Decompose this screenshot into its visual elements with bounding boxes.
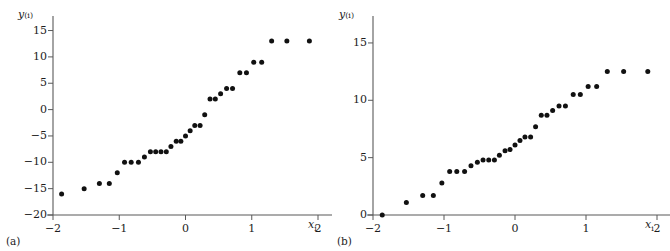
y-tick-label-b: 0 xyxy=(329,209,367,220)
y-axis-title-a: y(i) xyxy=(18,8,33,21)
x-tick-label-b: −1 xyxy=(429,223,459,234)
data-point xyxy=(492,157,497,162)
data-point xyxy=(188,128,193,133)
data-point xyxy=(497,153,502,158)
data-point xyxy=(97,181,102,186)
data-point xyxy=(122,160,127,165)
data-point xyxy=(237,70,242,75)
data-point xyxy=(269,39,274,44)
y-axis-title-b: y(i) xyxy=(339,8,354,21)
data-point xyxy=(550,108,555,113)
data-point xyxy=(192,123,197,128)
data-point xyxy=(481,157,486,162)
data-point xyxy=(142,155,147,160)
data-point xyxy=(605,69,610,74)
y-tick-label-b: 15 xyxy=(329,37,367,48)
data-point xyxy=(380,213,385,218)
data-point xyxy=(468,163,473,168)
data-point xyxy=(586,84,591,89)
data-point xyxy=(224,86,229,91)
y-tick-label-a: −15 xyxy=(9,183,47,194)
data-point xyxy=(208,97,213,102)
y-tick-label-a: −10 xyxy=(9,156,47,167)
data-point xyxy=(284,39,289,44)
data-point xyxy=(645,69,650,74)
data-point xyxy=(178,139,183,144)
y-tick-label-a: 10 xyxy=(9,51,47,62)
data-point xyxy=(563,104,568,109)
data-point xyxy=(198,123,203,128)
y-tick-label-a: 0 xyxy=(9,104,47,115)
y-tick-label-a: 15 xyxy=(9,25,47,36)
y-axis-title-sub-b: (i) xyxy=(345,11,354,20)
scatter-plot-b xyxy=(335,0,670,251)
data-point xyxy=(136,160,141,165)
data-point xyxy=(522,135,527,140)
y-tick-label-a: −20 xyxy=(9,209,47,220)
data-point xyxy=(621,69,626,74)
data-point xyxy=(148,149,153,154)
x-tick-label-b: −2 xyxy=(358,223,388,234)
data-point xyxy=(447,169,452,174)
data-point xyxy=(462,169,467,174)
data-point xyxy=(107,181,112,186)
data-point xyxy=(533,124,538,129)
panel-caption-a: (a) xyxy=(6,235,20,247)
data-point xyxy=(153,149,158,154)
data-point xyxy=(244,70,249,75)
data-point xyxy=(475,160,480,165)
x-tick-label-a: 2 xyxy=(303,223,333,234)
data-point xyxy=(164,149,169,154)
panel-b: y(i) xi (b) 051015−2−1012 xyxy=(335,0,670,251)
data-point xyxy=(439,180,444,185)
data-point xyxy=(183,133,188,138)
data-point xyxy=(557,104,562,109)
plot-area-b xyxy=(335,0,670,251)
y-tick-label-b: 10 xyxy=(329,94,367,105)
x-tick-label-a: −2 xyxy=(38,223,68,234)
y-axis-title-sub-a: (i) xyxy=(24,11,33,20)
data-point xyxy=(513,143,518,148)
y-tick-label-b: 5 xyxy=(329,152,367,163)
data-point xyxy=(578,92,583,97)
x-tick-label-b: 2 xyxy=(642,223,670,234)
data-point xyxy=(431,193,436,198)
data-point xyxy=(528,135,533,140)
data-point xyxy=(594,84,599,89)
y-tick-label-a: 5 xyxy=(9,77,47,88)
data-point xyxy=(251,60,256,65)
data-point xyxy=(420,193,425,198)
plot-area-a xyxy=(0,0,335,251)
data-point xyxy=(218,91,223,96)
data-point xyxy=(544,113,549,118)
figure-normal-probability-plots: y(i) xi (a) −20−15−10−5051015−2−1012 y(i… xyxy=(0,0,670,251)
data-point xyxy=(307,39,312,44)
data-point xyxy=(259,60,264,65)
data-point xyxy=(486,157,491,162)
y-tick-label-a: −5 xyxy=(9,130,47,141)
data-point xyxy=(115,170,120,175)
data-point xyxy=(59,191,64,196)
data-point xyxy=(517,138,522,143)
x-tick-label-b: 0 xyxy=(500,223,530,234)
panel-a: y(i) xi (a) −20−15−10−5051015−2−1012 xyxy=(0,0,335,251)
panel-caption-b: (b) xyxy=(337,235,352,247)
data-point xyxy=(168,144,173,149)
data-point xyxy=(404,200,409,205)
data-point xyxy=(571,92,576,97)
data-point xyxy=(508,147,513,152)
x-tick-label-a: 1 xyxy=(237,223,267,234)
data-point xyxy=(158,149,163,154)
data-point xyxy=(82,186,87,191)
scatter-plot-a xyxy=(0,0,335,251)
data-point xyxy=(230,86,235,91)
data-point xyxy=(213,97,218,102)
x-tick-label-b: 1 xyxy=(571,223,601,234)
data-point xyxy=(202,112,207,117)
x-tick-label-a: −1 xyxy=(104,223,134,234)
data-point xyxy=(174,139,179,144)
data-point xyxy=(129,160,134,165)
data-point xyxy=(454,169,459,174)
x-tick-label-a: 0 xyxy=(171,223,201,234)
data-point xyxy=(503,148,508,153)
